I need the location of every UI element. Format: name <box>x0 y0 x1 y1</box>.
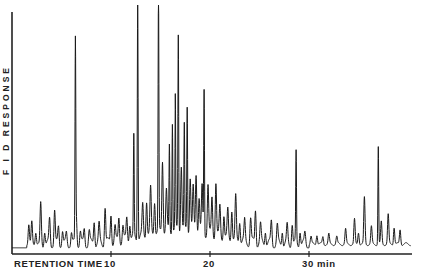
x-tick-label-10: 10 <box>104 258 116 269</box>
y-axis-label: F I D RESPONSE <box>1 85 13 175</box>
x-tick-label-30: 30 min <box>302 258 336 269</box>
chromatogram-plot <box>0 0 422 276</box>
x-axis-label: RETENTION TIME <box>14 258 103 269</box>
x-axis-title: RETENTION TIME <box>14 258 103 269</box>
fid-signal-trace <box>12 5 411 248</box>
x-tick-label-20: 20 <box>203 258 215 269</box>
